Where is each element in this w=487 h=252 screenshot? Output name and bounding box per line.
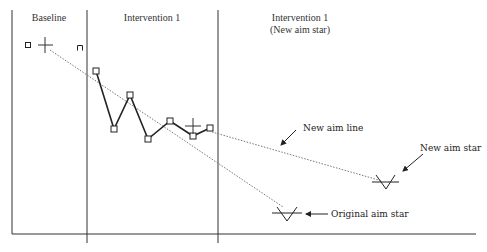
data-point — [167, 118, 173, 124]
data-point — [93, 68, 99, 74]
label-new-aim-star: New aim star — [420, 143, 482, 153]
data-point — [127, 92, 133, 98]
new-aim-star-icon — [372, 175, 399, 189]
phase-label-intervention: Intervention 1 — [124, 12, 180, 23]
data-point — [207, 125, 213, 131]
aim-line-chart: Baseline Intervention 1 Intervention 1 (… — [0, 0, 487, 252]
arrow-new-aim-star — [403, 154, 423, 171]
data-point — [145, 136, 151, 142]
phase-label-new-aim-title: Intervention 1 — [272, 12, 328, 23]
label-original-aim-star: Original aim star — [331, 209, 409, 219]
new-aim-line — [212, 132, 382, 181]
original-aim-star-icon — [272, 207, 302, 221]
label-new-aim-line: New aim line — [303, 123, 363, 133]
data-point — [26, 43, 31, 48]
phase-label-new-aim-sub: (New aim star) — [270, 24, 330, 36]
data-point-partial — [78, 46, 83, 51]
original-aim-line — [50, 50, 283, 207]
data-point — [111, 126, 117, 132]
data-markers — [26, 43, 214, 143]
arrow-new-aim-line — [281, 130, 296, 145]
phase-label-baseline: Baseline — [32, 12, 67, 23]
